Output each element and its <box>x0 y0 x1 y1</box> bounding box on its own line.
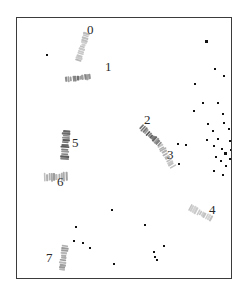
debris-speck <box>207 123 209 125</box>
debris-speck <box>205 40 208 43</box>
debris-speck <box>73 240 75 242</box>
chromosome-label-6: 6 <box>57 175 64 188</box>
debris-speck <box>213 145 215 147</box>
debris-speck <box>213 170 215 172</box>
debris-speck <box>224 152 227 155</box>
debris-speck <box>202 102 204 104</box>
debris-speck <box>222 174 224 176</box>
debris-speck <box>230 149 231 151</box>
debris-speck <box>111 209 113 211</box>
debris-speck <box>223 75 225 77</box>
chromosome-label-2: 2 <box>144 113 151 126</box>
debris-speck <box>46 54 48 56</box>
chromosome-label-0: 0 <box>87 23 94 36</box>
debris-speck <box>229 140 231 142</box>
chromosome-object <box>60 130 71 161</box>
debris-speck <box>229 158 231 160</box>
chromosome-object <box>43 172 67 182</box>
debris-speck <box>75 226 77 228</box>
debris-speck <box>178 163 180 165</box>
figure-root: 01234567 <box>0 0 247 296</box>
debris-speck <box>222 113 224 115</box>
debris-speck <box>214 68 216 70</box>
plot-area: 01234567 <box>17 18 231 278</box>
debris-speck <box>206 139 208 141</box>
debris-speck <box>163 245 165 247</box>
debris-speck <box>212 130 214 132</box>
debris-speck <box>217 102 219 104</box>
chromosome-object <box>65 73 92 82</box>
plot-frame: 01234567 <box>16 17 232 279</box>
chromosome-object <box>58 245 68 272</box>
debris-speck <box>89 247 91 249</box>
debris-speck <box>215 156 217 158</box>
debris-speck <box>156 259 158 261</box>
chromosome-label-4: 4 <box>209 203 216 216</box>
debris-speck <box>82 242 84 244</box>
debris-speck <box>223 122 225 124</box>
debris-speck <box>225 165 227 167</box>
debris-speck <box>185 144 187 146</box>
debris-speck <box>144 224 146 226</box>
chromosome-label-1: 1 <box>105 60 112 73</box>
chromosome-label-3: 3 <box>167 148 174 161</box>
debris-speck <box>154 256 156 258</box>
debris-speck <box>177 143 179 145</box>
chromosome-label-7: 7 <box>46 251 53 264</box>
debris-speck <box>153 251 155 253</box>
debris-speck <box>193 110 195 112</box>
debris-speck <box>217 138 219 140</box>
debris-speck <box>221 148 223 150</box>
debris-speck <box>194 83 196 85</box>
debris-speck <box>228 128 230 130</box>
chromosome-label-5: 5 <box>72 136 79 149</box>
debris-speck <box>220 160 222 162</box>
debris-speck <box>113 263 115 265</box>
